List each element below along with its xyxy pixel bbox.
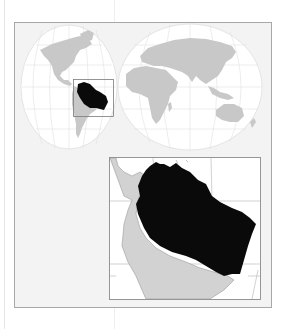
world-map-eastern-lobe bbox=[118, 24, 262, 150]
locator-map-figure bbox=[0, 0, 286, 329]
world-map-americas-lobe bbox=[21, 25, 117, 149]
inset-map bbox=[110, 158, 261, 300]
